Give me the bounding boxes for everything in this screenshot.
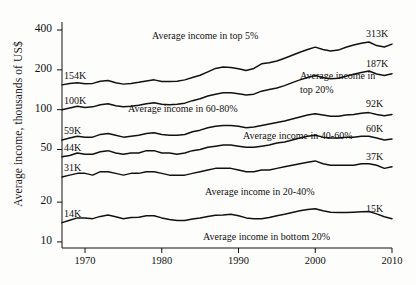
series-end-label: 60K	[366, 123, 383, 134]
x-tick-label: 2010	[369, 255, 415, 266]
series-end-label: 37K	[366, 151, 383, 162]
annotation-bottom-20: Average income in bottom 20%	[203, 231, 330, 242]
series-start-label: 31K	[64, 162, 81, 173]
income-percentile-line-chart: Average income, thousands of US$ 4002001…	[0, 0, 416, 285]
y-tick-label: 50	[8, 141, 52, 153]
series-start-label: 154K	[64, 70, 86, 81]
plot-area	[0, 0, 416, 285]
annotation-top-20-line2: top 20%	[300, 84, 334, 95]
series-end-label: 92K	[366, 98, 383, 109]
series-line	[62, 161, 392, 177]
x-tick-label: 1980	[139, 255, 185, 266]
x-axis-ticks	[85, 248, 392, 253]
x-tick-label: 2000	[292, 255, 338, 266]
x-tick-label: 1970	[62, 255, 108, 266]
series-end-label: 15K	[366, 203, 383, 214]
annotation-60-80: Average income in 60-80%	[128, 103, 238, 114]
annotation-20-40: Average income in 20-40%	[205, 186, 315, 197]
y-tick-label: 20	[8, 194, 52, 206]
series-start-label: 59K	[64, 125, 81, 136]
y-tick-label: 400	[8, 22, 52, 34]
series-start-label: 44K	[64, 142, 81, 153]
series-end-label: 187K	[366, 58, 388, 69]
series-start-label: 100K	[64, 95, 86, 106]
y-tick-label: 10	[8, 234, 52, 246]
x-tick-label: 1990	[216, 255, 262, 266]
annotation-top-5: Average income in top 5%	[152, 30, 258, 41]
y-tick-label: 100	[8, 102, 52, 114]
y-axis-ticks	[57, 30, 62, 242]
series-line	[62, 209, 392, 223]
annotation-top-20-line1: Average income in	[300, 70, 375, 81]
series-start-label: 14K	[64, 208, 81, 219]
series-end-label: 313K	[366, 28, 388, 39]
y-tick-label: 200	[8, 62, 52, 74]
annotation-40-60: Average income in 40-60%	[243, 130, 353, 141]
